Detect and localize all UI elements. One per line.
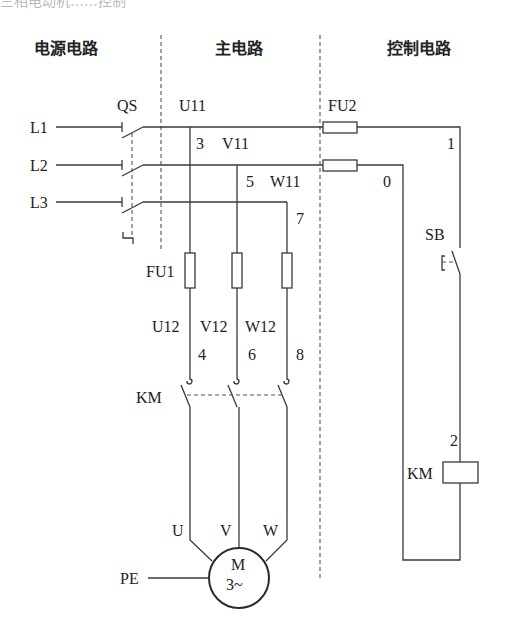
label-L2: L2 [30, 157, 48, 174]
label-V11: V11 [222, 135, 249, 152]
label-L1: L1 [30, 119, 48, 136]
label-QS: QS [117, 97, 137, 114]
label-node-8: 8 [296, 346, 304, 363]
label-PE: PE [120, 570, 139, 587]
header-power-circuit: 电源电路 [34, 39, 99, 58]
label-KM-main: KM [136, 389, 162, 406]
label-node-5: 5 [246, 173, 254, 190]
qs-switch-symbol: QS [117, 97, 143, 244]
header-control-circuit: 控制电路 [387, 39, 452, 58]
motor-symbol: M 3~ [209, 548, 269, 608]
label-motor-U: U [172, 522, 184, 539]
label-node-2: 2 [450, 432, 458, 449]
label-FU1: FU1 [146, 263, 174, 280]
km-coil-symbol: KM [407, 462, 478, 483]
motor-control-circuit-diagram: 三相电动机……控制 电源电路 主电路 控制电路 L1 L2 L3 QS [0, 0, 509, 628]
fuse-fu1-w [282, 253, 292, 288]
label-V12: V12 [200, 318, 228, 335]
cropped-caption: 三相电动机……控制 [0, 0, 126, 9]
label-node-3: 3 [196, 135, 204, 152]
label-motor-V: V [220, 522, 232, 539]
fuse-fu1-v [232, 253, 242, 288]
label-L3: L3 [30, 194, 48, 211]
label-U11: U11 [179, 97, 206, 114]
label-SB: SB [425, 226, 445, 243]
header-main-circuit: 主电路 [215, 39, 264, 58]
fuse-fu1-u [185, 253, 195, 288]
label-W11: W11 [270, 173, 301, 190]
label-motor-W: W [263, 522, 279, 539]
fuse-fu2-1 [323, 122, 357, 133]
label-W12: W12 [245, 318, 276, 335]
label-node-7: 7 [296, 210, 304, 227]
km-main-contacts: KM [136, 375, 289, 407]
label-node-0: 0 [383, 173, 391, 190]
label-KM-coil: KM [407, 465, 433, 482]
label-U12: U12 [152, 318, 180, 335]
power-lines: L1 L2 L3 [30, 119, 122, 211]
motor-phase-label: 3~ [226, 576, 243, 593]
fuse-fu2-2 [323, 160, 357, 171]
label-node-6: 6 [248, 346, 256, 363]
main-circuit: U11 3 V11 5 W11 7 FU1 U12 V12 W12 4 6 8 … [120, 97, 304, 608]
sb-push-button-symbol: SB [425, 226, 460, 462]
label-node-1: 1 [447, 135, 455, 152]
motor-label: M [231, 556, 245, 573]
control-circuit: FU2 1 0 SB 2 KM [323, 97, 478, 560]
label-FU2: FU2 [328, 97, 356, 114]
label-node-4: 4 [198, 346, 206, 363]
